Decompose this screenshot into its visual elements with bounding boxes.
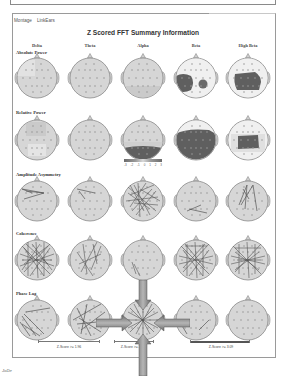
panel-tab-line xyxy=(12,13,209,14)
column-beta: Beta xyxy=(169,43,223,48)
zscore-scale-1 xyxy=(38,341,100,342)
head-map-coherence-theta xyxy=(67,234,113,282)
color-scale-ticks: -3-2-10123 xyxy=(124,163,162,167)
head-map-phase-high-beta xyxy=(225,294,271,342)
head-map-relative-beta xyxy=(173,114,219,162)
head-map-absolute-alpha xyxy=(120,52,166,100)
menu-bar: Montage LinkEars xyxy=(14,18,55,23)
head-map-asymmetry-theta xyxy=(67,175,113,223)
column-theta: Theta xyxy=(63,43,117,48)
head-map-absolute-theta xyxy=(67,52,113,100)
color-scale-bar xyxy=(124,159,162,162)
footer-text: JoDe xyxy=(2,368,12,373)
head-map-coherence-alpha xyxy=(120,234,166,282)
page-title: Z Scored FFT Summary Information xyxy=(12,29,274,36)
column-high-beta: High Beta xyxy=(221,43,275,48)
head-map-coherence-beta xyxy=(173,234,219,282)
head-map-absolute-beta xyxy=(173,52,219,100)
head-map-relative-high-beta xyxy=(225,114,271,162)
column-delta: Delta xyxy=(10,43,64,48)
head-map-phase-delta xyxy=(14,294,60,342)
column-alpha: Alpha xyxy=(116,43,170,48)
previous-panel-frame xyxy=(10,0,276,5)
menu-montage[interactable]: Montage xyxy=(14,18,32,23)
zscore-label-1: Z-Score >= 1.96 xyxy=(44,345,94,349)
zscore-label-3: Z-Score >= 3.09 xyxy=(196,345,246,349)
menu-linkears[interactable]: LinkEars xyxy=(37,18,55,23)
four-arrows-highlight-icon xyxy=(96,280,190,376)
head-map-relative-theta xyxy=(67,114,113,162)
head-map-absolute-delta xyxy=(14,52,60,100)
head-map-asymmetry-delta xyxy=(14,175,60,223)
head-map-asymmetry-high-beta xyxy=(225,175,271,223)
head-map-asymmetry-beta xyxy=(173,175,219,223)
head-map-coherence-delta xyxy=(14,234,60,282)
head-map-absolute-high-beta xyxy=(225,52,271,100)
head-map-coherence-high-beta xyxy=(225,234,271,282)
head-map-relative-delta xyxy=(14,114,60,162)
zscore-scale-3 xyxy=(190,341,250,343)
head-map-relative-alpha xyxy=(120,114,166,162)
head-map-asymmetry-alpha xyxy=(120,175,166,223)
